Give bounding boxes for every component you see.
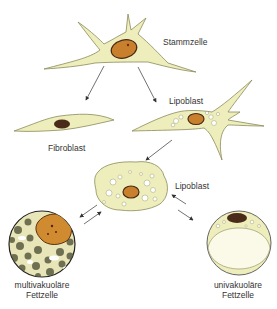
label-lipoblast-1: Lipoblast bbox=[169, 96, 203, 106]
label-fibroblast: Fibroblast bbox=[48, 143, 85, 153]
label-univacuolar-line2: Fettzelle bbox=[196, 290, 277, 300]
univacuolar-fat-cell-illustration bbox=[207, 211, 271, 275]
fibroblast-illustration bbox=[14, 114, 114, 131]
label-univacuolar-line1: univakuoläre bbox=[196, 280, 277, 290]
differentiation-diagram bbox=[0, 0, 277, 309]
arrow-from-univacuolar bbox=[172, 195, 186, 204]
label-multivacuolar-line2: Fettzelle bbox=[0, 290, 84, 300]
nucleus-icon bbox=[54, 120, 70, 129]
lipoblast-rounded-illustration bbox=[95, 162, 168, 211]
arrow-lipoblast-to-lipoblast bbox=[146, 140, 172, 160]
nucleus-icon bbox=[123, 186, 139, 198]
label-univacuolar-fat-cell: univakuoläre Fettzelle bbox=[196, 280, 277, 300]
label-multivacuolar-fat-cell: multivakuoläre Fettzelle bbox=[0, 280, 84, 300]
arrow-stem-to-lipoblast bbox=[138, 67, 156, 102]
arrow-stem-to-fibroblast bbox=[86, 66, 104, 100]
nucleus-icon bbox=[36, 214, 72, 245]
nucleus-icon bbox=[188, 114, 204, 125]
multivacuolar-fat-cell-illustration bbox=[9, 211, 75, 279]
label-stammzelle: Stammzelle bbox=[163, 37, 207, 47]
nucleus-icon bbox=[227, 213, 247, 223]
label-multivacuolar-line1: multivakuoläre bbox=[0, 280, 84, 290]
label-lipoblast-2: Lipoblast bbox=[175, 181, 209, 191]
arrow-to-univacuolar bbox=[178, 210, 193, 220]
arrow-from-multivacuolar bbox=[84, 212, 101, 224]
arrow-to-multivacuolar bbox=[80, 205, 97, 217]
lipoblast-illustration bbox=[132, 80, 264, 160]
